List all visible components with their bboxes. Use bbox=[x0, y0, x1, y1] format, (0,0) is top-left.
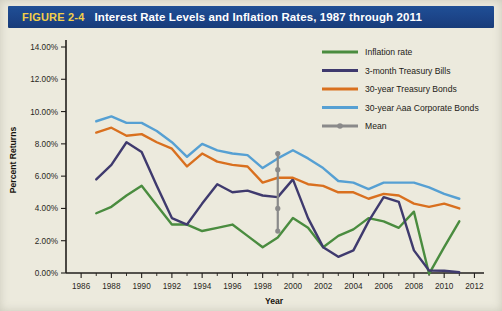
x-tick-label: 1998 bbox=[254, 282, 273, 291]
x-axis-title: Year bbox=[265, 296, 284, 306]
legend-label: Inflation rate bbox=[365, 47, 413, 57]
line-chart: 0.00%2.00%4.00%6.00%8.00%10.00%12.00%14.… bbox=[0, 30, 502, 311]
legend-label: 30-year Treasury Bonds bbox=[365, 84, 457, 94]
y-axis-tick-labels: 0.00%2.00%4.00%6.00%8.00%10.00%12.00%14.… bbox=[30, 43, 58, 278]
x-tick-label: 1992 bbox=[163, 282, 182, 291]
y-tick-label: 6.00% bbox=[35, 172, 58, 181]
x-tick-label: 2008 bbox=[405, 282, 424, 291]
y-tick-label: 2.00% bbox=[35, 237, 58, 246]
chart-legend: Inflation rate3-month Treasury Bills30-y… bbox=[322, 47, 479, 131]
plot-area: 0.00%2.00%4.00%6.00%8.00%10.00%12.00%14.… bbox=[0, 30, 502, 311]
x-tick-label: 2010 bbox=[435, 282, 454, 291]
legend-label: 30-year Aaa Corporate Bonds bbox=[365, 103, 479, 113]
x-tick-label: 2006 bbox=[375, 282, 394, 291]
x-tick-label: 1994 bbox=[193, 282, 212, 291]
x-tick-label: 1988 bbox=[102, 282, 121, 291]
mean-marker-point bbox=[275, 228, 280, 233]
figure-title-bar: FIGURE 2-4 Interest Rate Levels and Infl… bbox=[8, 6, 494, 28]
legend-label: Mean bbox=[365, 121, 387, 131]
y-tick-label: 0.00% bbox=[35, 269, 58, 278]
legend-swatch-marker bbox=[337, 123, 343, 129]
mean-indicator bbox=[275, 151, 280, 234]
x-tick-label: 2012 bbox=[465, 282, 484, 291]
x-tick-label: 1996 bbox=[223, 282, 242, 291]
y-axis-title: Percent Returns bbox=[8, 127, 18, 194]
legend-label: 3-month Treasury Bills bbox=[365, 66, 451, 76]
y-tick-label: 10.00% bbox=[30, 108, 58, 117]
mean-marker-point bbox=[275, 167, 280, 172]
x-tick-label: 2000 bbox=[284, 282, 303, 291]
x-tick-label: 1986 bbox=[72, 282, 91, 291]
y-tick-label: 12.00% bbox=[30, 75, 58, 84]
y-tick-label: 14.00% bbox=[30, 43, 58, 52]
figure-container: FIGURE 2-4 Interest Rate Levels and Infl… bbox=[0, 0, 502, 311]
x-tick-label: 1990 bbox=[133, 282, 152, 291]
x-axis-tick-labels: 1986198819901992199419961998200020022004… bbox=[72, 282, 484, 291]
mean-marker-point bbox=[275, 206, 280, 211]
x-tick-label: 2002 bbox=[314, 282, 333, 291]
figure-number: FIGURE 2-4 bbox=[8, 11, 85, 23]
y-tick-label: 8.00% bbox=[35, 140, 58, 149]
y-tick-label: 4.00% bbox=[35, 204, 58, 213]
x-tick-label: 2004 bbox=[344, 282, 363, 291]
figure-title: Interest Rate Levels and Inflation Rates… bbox=[85, 11, 422, 23]
mean-marker-point bbox=[275, 151, 280, 156]
